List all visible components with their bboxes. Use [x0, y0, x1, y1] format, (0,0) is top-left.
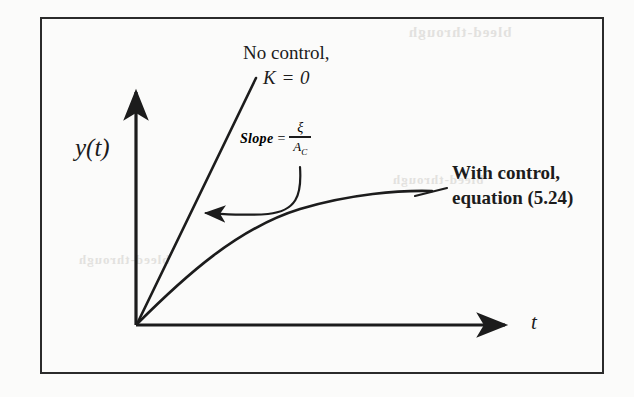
with-control-line1: With control, — [452, 162, 560, 183]
slope-pointer-arrow — [206, 167, 300, 215]
slope-denominator-subscript: C — [301, 146, 307, 156]
with-control-line2: equation (5.24) — [452, 187, 573, 208]
slope-equals-sign: = — [277, 131, 285, 147]
slope-denominator: AC — [293, 138, 307, 157]
no-control-line — [137, 78, 256, 324]
slope-word: Slope — [240, 131, 273, 147]
x-axis-label: t — [531, 310, 537, 335]
no-control-line2: K = 0 — [243, 65, 330, 90]
figure-page: bleed-through bleed-through bleed-throug… — [0, 0, 634, 397]
slope-fraction: ξ AC — [289, 121, 311, 156]
slope-numerator: ξ — [294, 121, 306, 136]
label-with-control: With control, equation (5.24) — [452, 160, 573, 210]
y-axis-label: y(t) — [75, 134, 110, 162]
slope-annotation: Slope = ξ AC — [240, 121, 311, 156]
no-control-line1: No control, — [243, 42, 330, 63]
label-no-control: No control, K = 0 — [243, 40, 330, 90]
